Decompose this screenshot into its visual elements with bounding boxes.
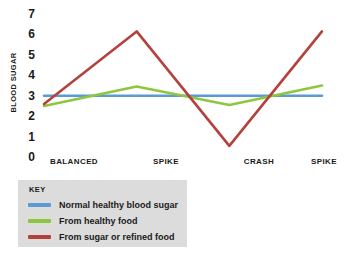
chart-legend: KEY Normal healthy blood sugar From heal… <box>18 180 187 247</box>
legend-label: From healthy food <box>59 214 138 228</box>
series-line-from-sugar-or-refined-food <box>44 31 322 145</box>
x-tick-label-spike-2: SPIKE <box>264 157 351 166</box>
legend-label: From sugar or refined food <box>59 230 175 244</box>
blood-sugar-line-chart: BLOOD SUGAR 7 6 5 4 3 2 1 0 BALANCED SPI… <box>0 0 351 264</box>
legend-label: Normal healthy blood sugar <box>59 198 178 212</box>
legend-swatch-green-icon <box>28 219 51 223</box>
legend-swatch-blue-icon <box>28 203 51 207</box>
legend-swatch-red-icon <box>28 235 51 239</box>
legend-title: KEY <box>29 185 46 194</box>
